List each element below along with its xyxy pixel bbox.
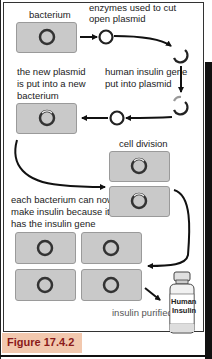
arrow-4 [126, 117, 172, 118]
cut-plasmid-icon [174, 50, 187, 62]
bottle-label-1: Human [171, 297, 196, 306]
transit-plasmid-icon [111, 112, 124, 125]
arrow-7 [148, 190, 189, 266]
arrow-6 [15, 140, 105, 187]
bottle-label-2: Insulin [172, 306, 196, 315]
figure-caption: Figure 17.4.2 [7, 336, 74, 348]
figure-caption-box: Figure 17.4.2 [2, 333, 82, 353]
recombinant-plasmid-icon [174, 97, 187, 114]
arrow-2 [114, 36, 171, 46]
bottom-rule [0, 355, 205, 357]
plasmid-icon [38, 30, 146, 292]
arrow-8 [145, 288, 160, 300]
free-plasmid-icon [100, 31, 113, 44]
